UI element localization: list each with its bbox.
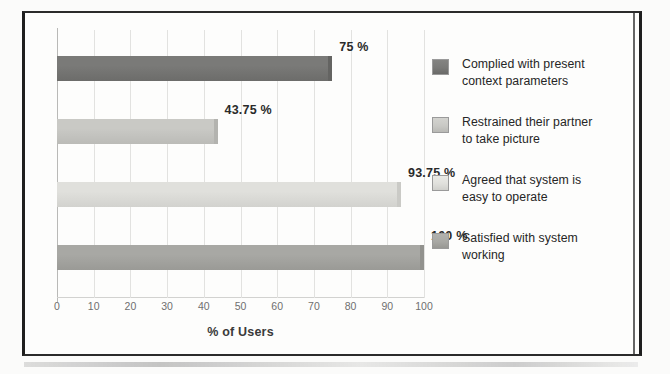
legend-color-swatch-icon bbox=[432, 233, 449, 249]
legend-label-line: Complied with present bbox=[462, 56, 585, 73]
figure-page: 75 %43.75 %93.75 %100 % 0102030405060708… bbox=[0, 0, 670, 374]
bar-fill bbox=[57, 56, 332, 81]
bar-value-label: 43.75 % bbox=[225, 103, 272, 117]
legend-item[interactable]: Restrained their partnerto take picture bbox=[432, 114, 637, 148]
x-axis-title: % of Users bbox=[57, 325, 424, 339]
bar-row: 93.75 % bbox=[57, 172, 424, 216]
legend-label-line: to take picture bbox=[462, 131, 592, 148]
x-tick-label: 40 bbox=[198, 300, 210, 312]
x-tick-label: 100 bbox=[415, 300, 433, 312]
legend-label-line: context parameters bbox=[462, 73, 585, 90]
x-tick-label: 10 bbox=[88, 300, 100, 312]
x-tick-label: 70 bbox=[308, 300, 320, 312]
legend-color-swatch-icon bbox=[432, 117, 449, 133]
bar-end-cap bbox=[397, 182, 401, 207]
bar-end-cap bbox=[328, 56, 332, 81]
legend-label-line: Restrained their partner bbox=[462, 114, 592, 131]
bar[interactable] bbox=[57, 245, 424, 270]
x-tick-label: 60 bbox=[271, 300, 283, 312]
legend-item[interactable]: Satisfied with systemworking bbox=[432, 230, 637, 264]
bar[interactable] bbox=[57, 182, 401, 207]
x-tick-label: 90 bbox=[381, 300, 393, 312]
legend-label: Restrained their partnerto take picture bbox=[462, 114, 592, 147]
legend-label: Satisfied with systemworking bbox=[462, 230, 578, 263]
x-tick-label: 0 bbox=[54, 300, 60, 312]
bar-row: 100 % bbox=[57, 235, 424, 279]
legend-label-line: Satisfied with system bbox=[462, 230, 578, 247]
gridline bbox=[424, 30, 425, 298]
scan-artifact bbox=[24, 362, 638, 367]
x-tick-label: 30 bbox=[161, 300, 173, 312]
x-axis-tick-labels: 0102030405060708090100 bbox=[57, 300, 424, 318]
legend-item[interactable]: Complied with presentcontext parameters bbox=[432, 56, 637, 90]
bar-row: 75 % bbox=[57, 46, 424, 90]
chart-legend: Complied with presentcontext parametersR… bbox=[432, 56, 637, 288]
bar-end-cap bbox=[214, 119, 218, 144]
legend-item[interactable]: Agreed that system iseasy to operate bbox=[432, 172, 637, 206]
legend-label-line: easy to operate bbox=[462, 189, 581, 206]
bar-fill bbox=[57, 245, 424, 270]
x-tick-label: 20 bbox=[125, 300, 137, 312]
bar-fill bbox=[57, 182, 401, 207]
bar[interactable] bbox=[57, 56, 332, 81]
legend-color-swatch-icon bbox=[432, 175, 449, 191]
bar-fill bbox=[57, 119, 218, 144]
legend-label-line: working bbox=[462, 247, 578, 264]
legend-label: Complied with presentcontext parameters bbox=[462, 56, 585, 89]
bar-value-label: 75 % bbox=[339, 40, 368, 54]
bar-end-cap bbox=[420, 245, 424, 270]
bar[interactable] bbox=[57, 119, 218, 144]
legend-color-swatch-icon bbox=[432, 59, 449, 75]
x-tick-label: 80 bbox=[345, 300, 357, 312]
legend-label-line: Agreed that system is bbox=[462, 172, 581, 189]
legend-label: Agreed that system iseasy to operate bbox=[462, 172, 581, 205]
x-tick-label: 50 bbox=[235, 300, 247, 312]
bar-chart-plot-area: 75 %43.75 %93.75 %100 % bbox=[57, 30, 424, 298]
bar-row: 43.75 % bbox=[57, 109, 424, 153]
